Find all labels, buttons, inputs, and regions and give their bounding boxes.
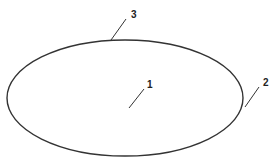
reference-numeral-3: 3 [131, 9, 137, 20]
patent-diagram: 1 2 3 [0, 0, 274, 164]
reference-2: 2 [245, 77, 269, 107]
reference-numeral-1: 1 [147, 79, 153, 90]
leader-line-3 [111, 19, 126, 40]
ellipse-outline [7, 40, 243, 156]
leader-line-2 [245, 87, 259, 107]
reference-3: 3 [111, 9, 137, 40]
leader-line-1 [129, 89, 144, 108]
reference-numeral-2: 2 [263, 77, 269, 88]
reference-1: 1 [129, 79, 153, 108]
